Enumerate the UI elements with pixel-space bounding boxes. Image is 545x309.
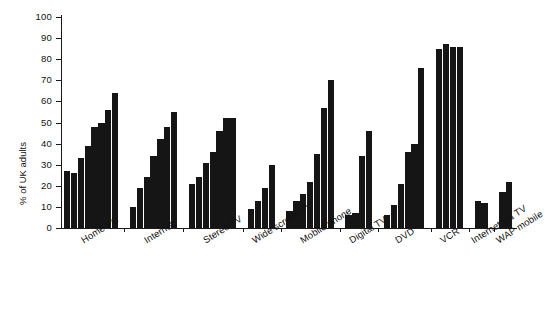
bar (150, 156, 156, 228)
bar (443, 44, 449, 228)
bar (78, 158, 84, 228)
bar (262, 188, 268, 228)
bar (411, 144, 417, 228)
bar (216, 131, 222, 228)
x-tick-mark (124, 228, 125, 232)
bar (436, 49, 442, 228)
bar (91, 127, 97, 228)
bar (457, 47, 463, 228)
bar (398, 184, 404, 228)
y-tick-label: 60 (2, 95, 52, 106)
x-tick-mark (243, 228, 244, 232)
bar (203, 163, 209, 228)
bar (157, 139, 163, 228)
bar (321, 108, 327, 228)
x-tick-mark (281, 228, 282, 232)
bar (64, 171, 70, 228)
y-tick-label: 80 (2, 53, 52, 64)
x-tick-mark (340, 228, 341, 232)
bar (366, 131, 372, 228)
bar (105, 110, 111, 228)
bar (171, 112, 177, 228)
y-tick-label: 40 (2, 138, 52, 149)
bar (164, 127, 170, 228)
bar (98, 123, 104, 229)
bar (223, 118, 229, 228)
y-tick-label: 100 (2, 11, 52, 22)
bar (196, 177, 202, 228)
y-tick-label: 70 (2, 74, 52, 85)
bar (269, 165, 275, 228)
bar (144, 177, 150, 228)
bar (418, 68, 424, 228)
bar (352, 213, 358, 228)
y-tick-label: 50 (2, 117, 52, 128)
x-tick-mark (183, 228, 184, 232)
bar (189, 184, 195, 228)
y-tick-label: 20 (2, 180, 52, 191)
bar (450, 47, 456, 228)
bar (314, 154, 320, 228)
x-tick-mark (494, 228, 495, 232)
bar (359, 156, 365, 228)
x-tick-mark (431, 228, 432, 232)
bar (137, 188, 143, 228)
y-axis-labels: 0102030405060708090100 (0, 0, 54, 309)
bar (230, 118, 236, 228)
plot-area (62, 17, 517, 228)
bar (210, 152, 216, 228)
y-tick-label: 10 (2, 201, 52, 212)
y-tick-label: 30 (2, 159, 52, 170)
bar (391, 205, 397, 228)
bar (328, 80, 334, 228)
bar (405, 152, 411, 228)
bar (475, 201, 481, 228)
bar (71, 173, 77, 228)
bar (85, 146, 91, 228)
bar (112, 93, 118, 228)
x-tick-mark (469, 228, 470, 232)
x-tick-mark (378, 228, 379, 232)
y-tick-label: 90 (2, 32, 52, 43)
bar (255, 201, 261, 228)
bar (248, 209, 254, 228)
bar (130, 207, 136, 228)
y-tick-label: 0 (2, 222, 52, 233)
